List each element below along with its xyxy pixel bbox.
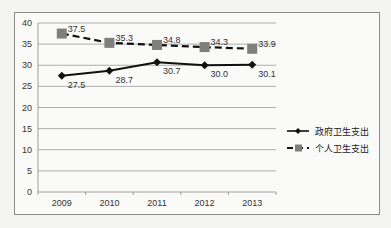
series-group: 27.528.730.730.030.137.535.334.834.333.9 [57,24,276,90]
legend-item-personal-health-expenditure: 个人卫生支出 [287,143,369,154]
y-tick-label: 0 [27,187,32,197]
data-label: 30.7 [163,66,181,76]
x-tick-label: 2009 [52,198,72,208]
data-label: 34.8 [163,35,181,45]
legend-label: 政府卫生支出 [315,126,369,137]
data-label: 34.3 [211,37,229,47]
y-tick-label: 15 [22,124,32,134]
legend-label: 个人卫生支出 [315,143,369,154]
diamond-marker [105,67,113,75]
legend-square-marker-icon [295,145,302,152]
diamond-marker [58,72,66,80]
diamond-marker [248,61,256,69]
square-marker [247,44,257,54]
series-personal-health-expenditure: 37.535.334.834.333.9 [57,24,276,54]
y-tick-label: 20 [22,103,32,113]
y-tick-label: 40 [22,18,32,28]
y-tick-label: 30 [22,60,32,70]
x-tick-label: 2012 [195,198,215,208]
data-label: 33.9 [258,39,276,49]
square-marker [152,40,162,50]
y-tick-label: 10 [22,145,32,155]
square-marker [57,29,67,39]
data-label: 37.5 [68,24,86,34]
data-label: 35.3 [115,33,133,43]
data-label: 30.1 [258,69,276,79]
series-government-health-expenditure: 27.528.730.730.030.1 [58,58,276,90]
y-tick-label: 25 [22,81,32,91]
x-tick-label: 2013 [242,198,262,208]
legend-diamond-marker-icon [295,128,301,134]
legend-item-government-health-expenditure: 政府卫生支出 [287,126,369,137]
y-tick-label: 35 [22,39,32,49]
x-tick-label: 2011 [147,198,166,208]
legend: 政府卫生支出个人卫生支出 [287,126,369,154]
data-label: 27.5 [68,80,86,90]
y-tick-label: 5 [27,166,32,176]
x-axis: 20092010201120122013 [38,192,276,208]
square-marker [104,38,114,48]
diamond-marker [201,61,209,69]
x-tick-label: 2010 [99,198,119,208]
data-label: 30.0 [211,69,229,79]
y-axis: 0510152025303540 [22,18,38,197]
line-chart: 0510152025303540 20092010201120122013 27… [0,0,391,228]
data-label: 28.7 [115,75,133,85]
square-marker [200,42,210,52]
